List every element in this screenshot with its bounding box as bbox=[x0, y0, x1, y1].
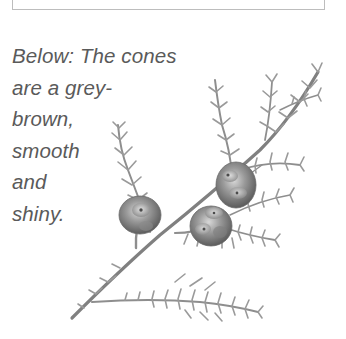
cone-upper-icon bbox=[216, 162, 256, 208]
leaflets-icon bbox=[78, 63, 322, 321]
cypress-branch-illustration bbox=[0, 0, 346, 339]
cone-left-icon bbox=[119, 196, 161, 234]
cone-right-icon bbox=[190, 206, 232, 246]
